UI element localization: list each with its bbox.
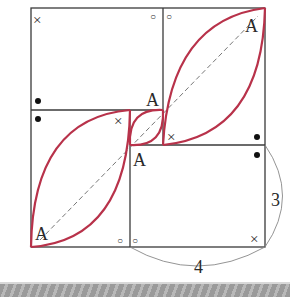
circle-mark-top-1: ○	[150, 11, 156, 22]
dot-mark-right-2	[254, 152, 260, 158]
label-a-bottom-left: A	[35, 224, 48, 244]
bottom-hatched-band	[0, 282, 290, 297]
cross-mark-upper-rect-inner: ×	[114, 113, 122, 129]
label-a-center-lower: A	[133, 150, 146, 170]
cross-mark-lower-rect-inner: ×	[167, 129, 175, 145]
dim-label-4: 4	[194, 257, 203, 277]
label-a-center-upper: A	[146, 90, 159, 110]
label-a-top-right: A	[245, 16, 258, 36]
dim-label-3: 3	[271, 190, 280, 210]
dot-mark-upper-left-2	[35, 116, 41, 122]
circle-mark-bottom-2: ○	[132, 235, 138, 246]
cross-mark-top-left: ×	[33, 12, 41, 28]
outer-square	[31, 8, 265, 247]
center-arc-2	[130, 110, 163, 145]
circle-mark-top-2: ○	[166, 11, 172, 22]
dot-mark-right-1	[254, 134, 260, 140]
cross-mark-bottom-right: ×	[250, 231, 258, 247]
circle-mark-bottom-1: ○	[117, 235, 123, 246]
dashed-diagonal	[40, 16, 258, 240]
center-arc-1	[130, 110, 163, 145]
dot-mark-upper-left-1	[35, 98, 41, 104]
